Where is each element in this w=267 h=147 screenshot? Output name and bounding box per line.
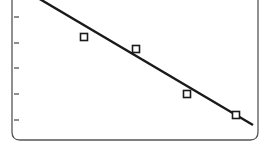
square-marker-icon [184, 91, 191, 98]
regression-line [38, 0, 253, 125]
square-marker-icon [133, 46, 140, 53]
square-marker-icon [233, 112, 240, 119]
chart-frame [12, 0, 258, 140]
y-axis-ticks [14, 17, 19, 120]
scatter-chart [0, 0, 267, 147]
square-marker-icon [81, 34, 88, 41]
fit-line [38, 0, 253, 125]
data-points [81, 34, 240, 119]
